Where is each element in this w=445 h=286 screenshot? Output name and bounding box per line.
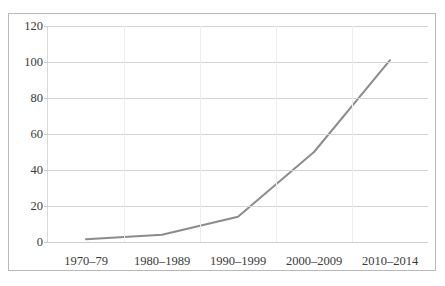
- x-axis-tick-label: 2010–2014: [362, 255, 418, 268]
- y-axis-tick-label: 40: [31, 164, 44, 177]
- x-gridline: [124, 26, 125, 242]
- y-tick-mark: [44, 26, 48, 27]
- y-gridline: [48, 170, 428, 171]
- series-line: [86, 60, 390, 239]
- y-axis-tick-label: 0: [37, 236, 43, 249]
- top-remnant-text: · ··: [0, 0, 11, 3]
- x-gridline: [352, 26, 353, 242]
- y-gridline: [48, 62, 428, 63]
- y-tick-mark: [44, 242, 48, 243]
- y-tick-mark: [44, 134, 48, 135]
- x-axis-tick-label: 1990–1999: [210, 255, 266, 268]
- y-gridline: [48, 134, 428, 135]
- y-axis-tick-label: 100: [24, 56, 43, 69]
- x-axis-tick-label: 1970–79: [64, 255, 108, 268]
- y-tick-mark: [44, 170, 48, 171]
- chart-plot-wrapper: 0204060801001201970–791980–19891990–1999…: [9, 14, 435, 270]
- page-top-remnant: · ··: [0, 0, 445, 11]
- x-gridline: [276, 26, 277, 242]
- plot-area: 0204060801001201970–791980–19891990–1999…: [48, 26, 428, 242]
- x-axis-tick-label: 2000–2009: [286, 255, 342, 268]
- y-tick-mark: [44, 206, 48, 207]
- y-axis-tick-label: 20: [31, 200, 44, 213]
- x-axis-tick-label: 1980–1989: [134, 255, 190, 268]
- y-gridline: [48, 206, 428, 207]
- y-axis-tick-label: 80: [31, 92, 44, 105]
- y-gridline: [48, 242, 428, 243]
- y-axis-tick-label: 120: [24, 20, 43, 33]
- chart-container: 0204060801001201970–791980–19891990–1999…: [8, 13, 436, 271]
- x-gridline: [200, 26, 201, 242]
- y-tick-mark: [44, 62, 48, 63]
- y-gridline: [48, 26, 428, 27]
- y-gridline: [48, 98, 428, 99]
- y-tick-mark: [44, 98, 48, 99]
- y-axis-tick-label: 60: [31, 128, 44, 141]
